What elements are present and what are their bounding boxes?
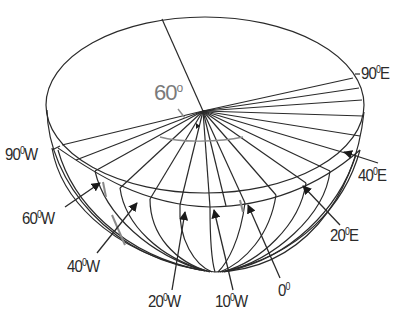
label-40E: 400E — [358, 167, 386, 184]
label-60W: 600W — [22, 210, 54, 227]
label-40W: 400W — [67, 258, 99, 275]
bowl-outline — [47, 110, 364, 272]
label-90E: 900E — [361, 65, 389, 82]
pointer-10W — [214, 210, 233, 290]
angle-label: 60o — [154, 82, 182, 104]
top-ellipse — [46, 17, 364, 193]
label-20W: 200W — [148, 293, 180, 310]
label-20E: 200E — [330, 227, 358, 244]
hemisphere-diagram — [0, 0, 395, 315]
label-10W: 100W — [215, 293, 247, 310]
pointer-40E — [344, 152, 378, 163]
pointer-0 — [248, 205, 280, 278]
label-90W: 900W — [5, 146, 37, 163]
label-0: 00 — [278, 282, 289, 299]
pointer-20W — [172, 212, 185, 290]
angle-arc — [160, 137, 243, 141]
